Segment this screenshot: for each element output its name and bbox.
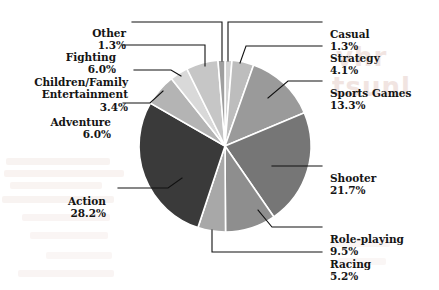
leader-line-other [132, 22, 222, 61]
label-adventure-pct: 6.0% [50, 128, 111, 141]
leader-line-racing [212, 230, 322, 252]
label-racing: Racing 5.2% [330, 245, 371, 290]
label-children-family-name: Children/Family Entertainment [34, 76, 128, 101]
leader-line-strategy [240, 46, 322, 63]
leader-line-casual [228, 22, 322, 61]
label-strategy-name: Strategy [330, 52, 380, 64]
pie-slices [139, 60, 311, 232]
label-racing-pct: 5.2% [330, 270, 371, 283]
leader-line-fighting [122, 45, 205, 66]
label-role-playing-name: Role-playing [330, 233, 404, 245]
leader-line-children-family [134, 70, 181, 76]
label-sports-games-name: Sports Games [330, 87, 411, 99]
pie-chart-figure: vhr tsunl [0, 0, 439, 290]
label-adventure-name: Adventure [50, 116, 111, 128]
label-action-pct: 28.2% [68, 207, 106, 220]
label-sports-games-pct: 13.3% [330, 99, 411, 112]
label-other-name: Other [92, 27, 126, 39]
label-action-name: Action [68, 195, 106, 207]
label-shooter-pct: 21.7% [330, 184, 376, 197]
label-sports-games: Sports Games 13.3% [330, 74, 411, 124]
label-shooter-name: Shooter [330, 172, 376, 184]
label-action: Action 28.2% [68, 182, 106, 232]
label-adventure: Adventure 6.0% [50, 103, 111, 153]
label-casual-name: Casual [330, 28, 370, 40]
label-shooter: Shooter 21.7% [330, 159, 376, 209]
label-racing-name: Racing [330, 258, 371, 270]
label-fighting-name: Fighting [66, 51, 116, 63]
